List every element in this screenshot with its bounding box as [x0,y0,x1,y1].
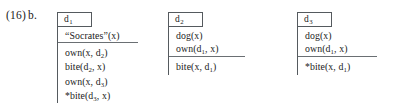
condition-tail: , x) [205,43,218,54]
condition-line: dog(x) [176,29,239,42]
drs-box-1: d1 “Socrates”(x) own(x, d2) bite(d2, x) … [57,8,138,103]
drs-label-1: d1 [57,12,92,27]
drs-lower-section-3: *bite(x, d1) [298,57,377,74]
condition-text: dog(x) [305,30,332,41]
condition-line: *bite(x, d1) [305,60,371,74]
condition-line: own(d1, x) [176,42,239,56]
condition-tail: , x) [92,61,105,72]
condition-text: “Socrates”(x) [65,30,120,41]
drs-body-2: dog(x) own(d1, x) bite(x, d1) [168,26,245,75]
drs-body-1: “Socrates”(x) own(x, d2) bite(d2, x) own… [57,26,138,103]
condition-subscript: 3 [101,81,105,88]
condition-text: own(x, d [65,76,101,87]
condition-line: bite(d2, x) [65,60,132,74]
drs-body-3: dog(x) own(d1, x) *bite(x, d1) [297,26,377,75]
drs-label-2: d2 [168,12,203,27]
condition-subscript: 1 [202,48,206,55]
condition-tail: ) [347,61,350,72]
drs-box-2: d2 dog(x) own(d1, x) bite(x, d1) [168,8,245,75]
condition-line: own(x, d3) [65,75,132,89]
condition-tail: , x) [97,90,110,101]
example-number: (16) [6,9,26,21]
condition-line: own(d1, x) [305,42,371,56]
drs-upper-section-1: “Socrates”(x) [58,29,138,42]
condition-subscript: 2 [88,66,92,73]
condition-tail: ) [104,47,107,58]
drs-label-subscript-2: 2 [180,18,184,25]
condition-tail: ) [104,76,107,87]
condition-text: bite(x, d [176,61,210,72]
condition-subscript: 2 [101,52,105,59]
condition-text: own(d [176,43,202,54]
condition-text: bite(d [70,90,93,101]
example-letter: b. [28,9,37,21]
drs-label-subscript-1: 1 [69,18,73,25]
condition-text: own(x, d [65,47,101,58]
condition-text: dog(x) [176,30,203,41]
condition-line: dog(x) [305,29,371,42]
drs-upper-section-2: dog(x) own(d1, x) [169,29,245,56]
condition-tail: , x) [334,43,347,54]
drs-figure: (16)b. d1 “Socrates”(x) own(x, d2) bite(… [0,0,396,112]
drs-upper-section-3: dog(x) own(d1, x) [298,29,377,56]
condition-subscript: 1 [210,66,214,73]
drs-lower-section-1: own(x, d2) bite(d2, x) own(x, d3) *bite(… [58,43,138,103]
drs-label-subscript-3: 3 [309,18,313,25]
condition-subscript: 1 [331,48,335,55]
condition-text: bite(x, d [310,61,344,72]
condition-text: bite(d [65,61,88,72]
drs-lower-section-2: bite(x, d1) [169,57,245,74]
drs-box-3: d3 dog(x) own(d1, x) *bite(x, d1) [297,8,377,75]
condition-line: *bite(d3, x) [65,89,132,103]
drs-label-3: d3 [297,12,332,27]
condition-tail: ) [213,61,216,72]
condition-subscript: 1 [343,66,347,73]
condition-subscript: 3 [93,95,97,102]
condition-line: “Socrates”(x) [65,29,132,42]
example-label: (16)b. [6,9,37,22]
condition-line: own(x, d2) [65,46,132,60]
condition-text: own(d [305,43,331,54]
condition-line: bite(x, d1) [176,60,239,74]
